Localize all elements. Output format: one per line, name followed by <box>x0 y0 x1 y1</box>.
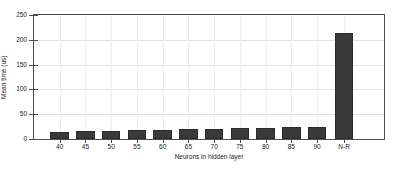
x-axis-tick-label: 55 <box>133 144 140 151</box>
bar-85 <box>282 127 301 139</box>
y-axis-title-text: Mean time (us) <box>2 55 9 98</box>
x-axis-tick-label: 60 <box>159 144 166 151</box>
x-gridline <box>85 15 86 139</box>
x-axis-tick-label: 65 <box>185 144 192 151</box>
x-axis-tick-label: 90 <box>313 144 320 151</box>
bar-65 <box>179 129 198 139</box>
y-axis-tick-inner <box>34 89 38 90</box>
x-axis-tick-label: 85 <box>288 144 295 151</box>
x-gridline <box>163 15 164 139</box>
figure-canvas: Mean time (us) 0501001502002504045505560… <box>0 0 403 172</box>
x-axis-tick-label: 80 <box>262 144 269 151</box>
plot-area: 0501001502002504045505560657075808590N-R <box>33 14 385 140</box>
y-axis-tick-label: 150 <box>16 61 27 68</box>
x-gridline <box>240 15 241 139</box>
x-axis-tick-label: 50 <box>108 144 115 151</box>
y-gridline <box>34 40 384 41</box>
y-gridline <box>34 114 384 115</box>
bar-80 <box>256 128 275 139</box>
bar-55 <box>128 130 147 139</box>
y-gridline <box>34 89 384 90</box>
x-axis-tick-label: 40 <box>56 144 63 151</box>
x-gridline <box>137 15 138 139</box>
x-gridline <box>291 15 292 139</box>
y-axis-tick-label: 100 <box>16 86 27 93</box>
x-axis-tick-label: 75 <box>236 144 243 151</box>
bar-45 <box>76 131 95 139</box>
x-axis-tick-label: N-R <box>338 144 350 151</box>
y-axis-tick-inner <box>34 40 38 41</box>
y-axis-tick-label: 200 <box>16 37 27 44</box>
bar-75 <box>231 128 250 139</box>
bar-40 <box>50 132 69 139</box>
y-axis-title: Mean time (us) <box>0 14 10 140</box>
y-gridline <box>34 65 384 66</box>
x-gridline <box>111 15 112 139</box>
y-axis-tick-label: 250 <box>16 12 27 19</box>
y-axis-tick-inner <box>34 114 38 115</box>
x-gridline <box>266 15 267 139</box>
y-axis-tick-label: 50 <box>20 111 27 118</box>
x-gridline <box>188 15 189 139</box>
y-axis-tick-label: 0 <box>23 136 27 143</box>
bar-N-R <box>335 33 354 139</box>
x-gridline <box>60 15 61 139</box>
x-axis-title: Neurons in hidden layer <box>33 154 385 161</box>
bar-50 <box>102 131 121 139</box>
x-gridline <box>317 15 318 139</box>
x-axis-tick-label: 45 <box>82 144 89 151</box>
x-axis-tick-label: 70 <box>211 144 218 151</box>
y-axis-tick-inner <box>34 139 38 140</box>
bar-60 <box>153 130 172 139</box>
y-axis-tick-inner <box>34 65 38 66</box>
bar-90 <box>308 127 327 139</box>
y-axis-tick-inner <box>34 15 38 16</box>
bar-70 <box>205 129 224 139</box>
x-gridline <box>214 15 215 139</box>
